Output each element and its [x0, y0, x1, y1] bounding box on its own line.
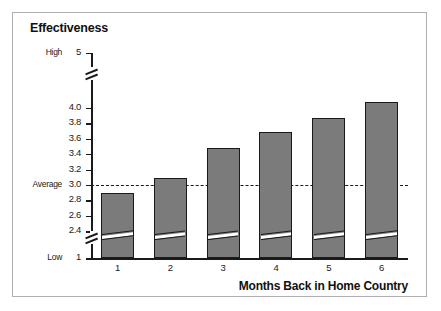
x-axis-line — [91, 258, 408, 260]
average-reference-line — [91, 185, 408, 186]
y-tick-label: 3.2 — [69, 163, 81, 174]
y-tick — [86, 200, 92, 201]
y-tick — [86, 108, 92, 109]
bar-axis-break — [208, 229, 238, 240]
y-axis-word-low: Low — [47, 252, 62, 262]
x-tick-label: 6 — [362, 262, 402, 273]
bar[interactable] — [101, 193, 134, 258]
y-tick-label: 4.0 — [69, 101, 81, 112]
bar-axis-break — [261, 229, 291, 240]
plot-area: 5 High 4.03.83.63.43.23.0Average2.82.62.… — [13, 13, 428, 298]
bar-axis-break — [314, 229, 344, 240]
x-tick-label: 5 — [309, 262, 349, 273]
y-tick-high — [86, 53, 92, 54]
y-tick-label-high: 5 — [76, 46, 81, 57]
chart-figure-frame: Effectiveness 5 High 4.03.83.63.43.23.0A… — [12, 12, 427, 297]
y-axis-line — [91, 53, 93, 259]
bar-axis-break — [102, 229, 132, 240]
y-tick-label: 3.8 — [69, 116, 81, 127]
y-tick — [86, 123, 92, 124]
y-tick-label: 2.6 — [69, 209, 81, 220]
y-axis-word-high: High — [46, 47, 62, 57]
x-tick-label: 1 — [97, 262, 137, 273]
y-tick — [86, 216, 92, 217]
y-axis-break-upper — [85, 67, 98, 80]
x-tick-label: 4 — [256, 262, 296, 273]
y-tick-label: 3.0 — [69, 178, 81, 189]
bar-axis-break — [366, 229, 396, 240]
y-axis-word-average: Average — [33, 179, 62, 189]
y-tick-label: 3.6 — [69, 132, 81, 143]
x-tick-label: 2 — [150, 262, 190, 273]
y-tick-label: 3.4 — [69, 147, 81, 158]
y-tick — [86, 170, 92, 171]
y-tick-low — [86, 258, 92, 259]
y-tick-label: 2.4 — [69, 224, 81, 235]
bar-axis-break — [155, 229, 185, 240]
y-axis-break-lower — [85, 231, 98, 244]
bar[interactable] — [207, 148, 240, 258]
y-tick — [86, 139, 92, 140]
y-tick-label-low: 1 — [76, 251, 81, 262]
x-axis-title: Months Back in Home Country — [239, 279, 408, 293]
bar[interactable] — [154, 178, 187, 258]
x-tick-label: 3 — [203, 262, 243, 273]
y-tick — [86, 154, 92, 155]
y-tick-label: 2.8 — [69, 193, 81, 204]
